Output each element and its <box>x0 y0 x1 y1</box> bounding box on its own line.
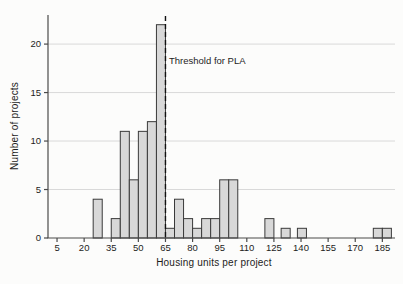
y-tick-label: 5 <box>36 184 41 195</box>
histogram-bar <box>93 199 102 238</box>
histogram-bar <box>156 25 165 238</box>
histogram-bar <box>129 180 138 238</box>
histogram-bar <box>138 131 147 238</box>
threshold-annotation-label: Threshold for PLA <box>169 55 246 66</box>
y-tick-label: 10 <box>30 135 41 146</box>
x-tick-label: 140 <box>293 242 309 253</box>
x-tick-label: 125 <box>266 242 282 253</box>
histogram-bar <box>111 219 120 238</box>
histogram-bar <box>265 219 274 238</box>
histogram-bar <box>220 180 229 238</box>
x-tick-label: 80 <box>187 242 198 253</box>
x-tick-label: 35 <box>106 242 117 253</box>
histogram-bar <box>184 219 193 238</box>
histogram-bar <box>211 219 220 238</box>
histogram-bar <box>147 122 156 238</box>
y-tick-label: 15 <box>30 87 41 98</box>
histogram-bar <box>229 180 238 238</box>
histogram-bar <box>281 228 290 238</box>
histogram-bar <box>165 228 174 238</box>
x-tick-label: 50 <box>133 242 144 253</box>
histogram-bar <box>202 219 211 238</box>
x-tick-label: 185 <box>374 242 390 253</box>
y-tick-label: 20 <box>30 38 41 49</box>
y-axis-title: Number of projects <box>9 82 20 170</box>
histogram-bar <box>175 199 184 238</box>
x-tick-label: 95 <box>214 242 225 253</box>
x-tick-label: 170 <box>347 242 363 253</box>
x-tick-label: 20 <box>79 242 90 253</box>
histogram-figure: 051015205203550658095110125140155170185 … <box>0 0 403 284</box>
y-tick-label: 0 <box>36 232 41 243</box>
x-tick-label: 65 <box>160 242 171 253</box>
histogram-plot-area: 051015205203550658095110125140155170185 <box>0 0 403 284</box>
histogram-bar <box>382 228 391 238</box>
histogram-bar <box>120 131 129 238</box>
x-tick-label: 5 <box>54 242 59 253</box>
x-tick-label: 155 <box>320 242 336 253</box>
x-tick-label: 110 <box>239 242 254 253</box>
histogram-bar <box>373 228 382 238</box>
x-axis-title: Housing units per project <box>156 257 272 268</box>
histogram-bar <box>297 228 306 238</box>
histogram-bar <box>193 228 202 238</box>
